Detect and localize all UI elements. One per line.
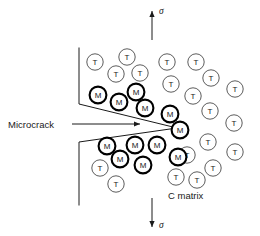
particle-label: T [194,58,199,67]
microcrack-annotation-group: Microcrack [8,119,140,130]
particle-label: M [167,110,174,119]
particle-label: M [140,161,147,170]
crack-boundary-group [79,48,177,205]
particle-t: T [168,169,184,185]
particle-label: M [142,104,149,113]
particle-label: T [114,70,119,79]
microcrack-label: Microcrack [8,119,54,130]
particle-m: M [112,151,129,168]
particle-m: M [137,100,154,117]
particle-label: T [211,164,216,173]
particle-label: T [233,148,238,157]
matrix-label: C matrix [168,190,204,201]
stress-label-bottom: σ [159,220,164,230]
particle-m: M [90,87,107,104]
particle-label: T [233,85,238,94]
particle-m: M [127,137,144,154]
particle-t: T [227,81,243,97]
particle-label: T [209,74,214,83]
particle-m: M [99,138,116,155]
particle-label: M [133,88,140,97]
particle-label: T [98,164,103,173]
particle-t: T [119,49,135,65]
particle-t: T [205,160,221,176]
particle-label: T [174,173,179,182]
particle-t: T [226,115,242,131]
particle-label: T [138,69,143,78]
particle-label: M [95,91,102,100]
particle-m: M [135,157,152,174]
particle-m: M [111,94,128,111]
particle-t: T [188,54,204,70]
particle-group: TTTTTTTTTTTTTTTTTTTTMMMMMMMMMMMM [87,49,243,192]
particle-label: T [169,80,174,89]
particle-m: M [128,84,145,101]
particle-label: T [125,53,130,62]
particle-t: T [200,134,216,150]
particle-t: T [163,76,179,92]
diagram-canvas: TTTTTTTTTTTTTTTTTTTTMMMMMMMMMMMM σ σ Mic… [0,0,260,236]
particle-label: T [195,176,200,185]
stress-label-top: σ [159,6,164,16]
particle-t: T [202,103,218,119]
particle-label: T [232,119,237,128]
particle-t: T [185,88,201,104]
particle-label: M [177,126,184,135]
particle-t: T [159,54,175,70]
particle-t: T [189,172,205,188]
particle-m: M [149,137,166,154]
particle-label: M [116,98,123,107]
particle-m: M [172,122,189,139]
particle-label: T [165,58,170,67]
particle-label: T [191,92,196,101]
particle-m: M [170,149,187,166]
particle-m: M [162,106,179,123]
particle-label: M [117,155,124,164]
particle-label: M [104,142,111,151]
particle-label: T [206,138,211,147]
microcrack-diagram: TTTTTTTTTTTTTTTTTTTTMMMMMMMMMMMM σ σ Mic… [0,0,260,236]
particle-label: T [208,107,213,116]
particle-t: T [92,160,108,176]
particle-label: M [154,141,161,150]
particle-label: T [114,180,119,189]
particle-t: T [108,66,124,82]
particle-t: T [87,54,103,70]
particle-t: T [108,176,124,192]
particle-label: T [93,58,98,67]
particle-t: T [132,65,148,81]
particle-t: T [203,70,219,86]
particle-label: M [175,153,182,162]
particle-t: T [227,144,243,160]
particle-label: M [132,141,139,150]
